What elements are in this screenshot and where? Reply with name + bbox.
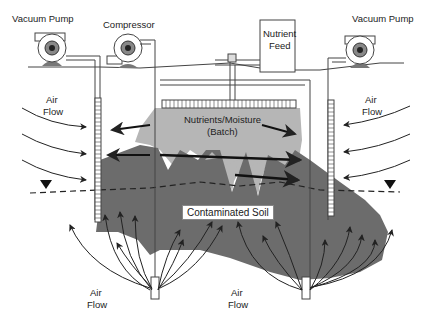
label-air-flow-bl-1: Air [90, 287, 102, 299]
injection-well-center-right-screen [302, 277, 310, 299]
label-vacuum-pump-left: Vacuum Pump [12, 13, 74, 25]
bioventing-diagram [0, 0, 433, 324]
label-air-flow-ul-2: Flow [43, 106, 63, 118]
label-nutrients-moisture-2: (Batch) [207, 126, 238, 138]
label-air-flow-ul-1: Air [46, 94, 58, 106]
label-air-flow-br-1: Air [231, 287, 243, 299]
label-nutrient-feed-1: Nutrient [263, 28, 296, 40]
injection-well-center-left-screen [151, 277, 159, 299]
water-table-symbol-left [40, 180, 52, 189]
extraction-well-left-screen [95, 98, 101, 222]
ground-surface [28, 63, 404, 70]
label-air-flow-bl-2: Flow [87, 299, 107, 311]
label-nutrient-feed-2: Feed [269, 40, 291, 52]
label-air-flow-ur-1: Air [365, 94, 377, 106]
extraction-well-right-screen [328, 100, 334, 216]
label-contaminated-soil: Contaminated Soil [182, 205, 274, 220]
air-flow-arrows-left [22, 108, 86, 180]
nutrient-infiltration-gallery [162, 100, 296, 108]
label-air-flow-br-2: Flow [228, 299, 248, 311]
label-compressor: Compressor [103, 19, 155, 31]
label-vacuum-pump-right: Vacuum Pump [352, 13, 414, 25]
label-air-flow-ur-2: Flow [362, 106, 382, 118]
valve-icon [228, 54, 236, 62]
water-table-symbol-right [384, 180, 396, 189]
label-nutrients-moisture-1: Nutrients/Moisture [184, 114, 261, 126]
